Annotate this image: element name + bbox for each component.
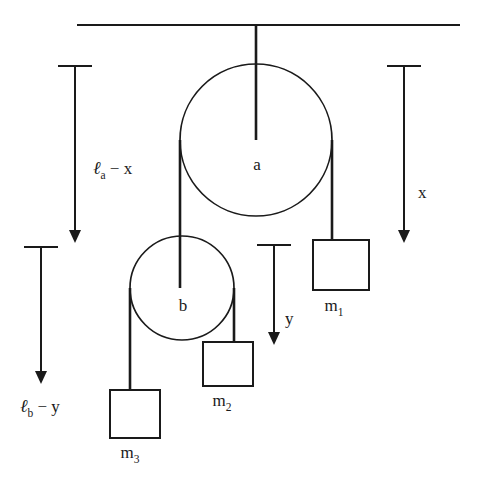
mass-label-m3: m3 xyxy=(121,443,140,465)
pulley-wheel-b xyxy=(130,236,234,340)
mass-block-m3 xyxy=(110,390,160,438)
mass-block-m2 xyxy=(203,342,253,386)
dimension-label-x: x xyxy=(418,183,427,202)
dimension-x: x xyxy=(387,66,427,243)
dimension-label-operator-lb-minus-y: − y xyxy=(33,397,60,416)
mass-label-subscript-m2: 2 xyxy=(226,401,232,413)
dimension-lb-minus-y: ℓb − y xyxy=(20,247,60,419)
mass-label-subscript-m3: 3 xyxy=(134,453,140,465)
pulley-diagram-canvas: ab m1m2m3 ℓa − xxℓb − yy xyxy=(0,0,481,477)
dimension-arrowhead-lb-minus-y xyxy=(35,371,47,384)
dimension-label-operator-la-minus-x: − x xyxy=(106,159,133,178)
pulley-label-b: b xyxy=(179,296,188,315)
dimension-arrowhead-x xyxy=(398,230,410,243)
mass-block-group: m1m2m3 xyxy=(110,240,369,465)
mass-label-m2: m2 xyxy=(213,391,232,413)
pulley-label-a: a xyxy=(253,155,261,174)
dimension-y: y xyxy=(257,245,294,345)
mass-block-m1 xyxy=(313,240,369,290)
mass-label-m1: m1 xyxy=(325,296,344,318)
dimension-arrowhead-la-minus-x xyxy=(69,230,81,243)
pulley-group: ab xyxy=(130,64,332,340)
mass-label-subscript-m1: 1 xyxy=(338,306,344,318)
dimension-label-y: y xyxy=(285,309,294,328)
dimension-label-la-minus-x: ℓa − x xyxy=(93,157,133,181)
dimension-la-minus-x: ℓa − x xyxy=(58,66,133,243)
dimension-arrowhead-y xyxy=(268,332,280,345)
pulley-diagram: ab m1m2m3 ℓa − xxℓb − yy xyxy=(0,0,481,477)
dimension-label-lb-minus-y: ℓb − y xyxy=(20,395,60,419)
